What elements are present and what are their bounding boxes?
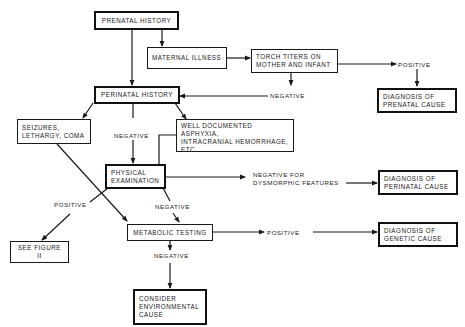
node-torch-titers: TORCH TITERS ON MOTHER AND INFANT (251, 49, 338, 73)
node-diagnosis-prenatal: DIAGNOSIS OF PRENATAL CAUSE (377, 88, 457, 113)
node-seizures: SEIZURES, LETHARGY, COMA (17, 119, 91, 144)
node-prenatal-history: PRENATAL HISTORY (94, 11, 179, 30)
edge-label-torch-positive: POSITIVE (398, 61, 431, 69)
node-physical-examination: PHYSICAL EXAMINATION (105, 164, 166, 189)
edge-label-exam-positive: POSITIVE (54, 201, 87, 209)
edge-label-perinatal-negative: NEGATIVE (114, 132, 149, 140)
node-metabolic-testing: METABOLIC TESTING (127, 224, 213, 241)
node-perinatal-history: PERINATAL HISTORY (94, 86, 180, 104)
edge-label-exam-negative-dysmorphic: NEGATIVE FOR DYSMORPHIC FEATURES (253, 171, 339, 187)
edge-label-metabolic-positive: POSITIVE (267, 229, 300, 237)
node-see-figure: SEE FIGURE II (10, 241, 69, 263)
edge-label-torch-negative: NEGATIVE (270, 92, 305, 100)
node-diagnosis-perinatal: DIAGNOSIS OF PERINATAL CAUSE (378, 170, 458, 195)
flowchart-canvas: PRENATAL HISTORY MATERNAL ILLNESS TORCH … (0, 0, 465, 327)
edge-label-metabolic-negative: NEGATIVE (154, 252, 189, 260)
edge-label-exam-negative: NEGATIVE (155, 203, 190, 211)
node-environmental-cause: CONSIDER ENVIRONMENTAL CAUSE (133, 289, 207, 325)
node-asphyxia: WELL DOCUMENTED ASPHYXIA, INTRACRANIAL H… (176, 119, 294, 152)
node-diagnosis-genetic: DIAGNOSIS OF GENETIC CAUSE (378, 222, 458, 247)
node-maternal-illness: MATERNAL ILLNESS (147, 47, 227, 69)
flowchart-connectors (0, 0, 465, 327)
